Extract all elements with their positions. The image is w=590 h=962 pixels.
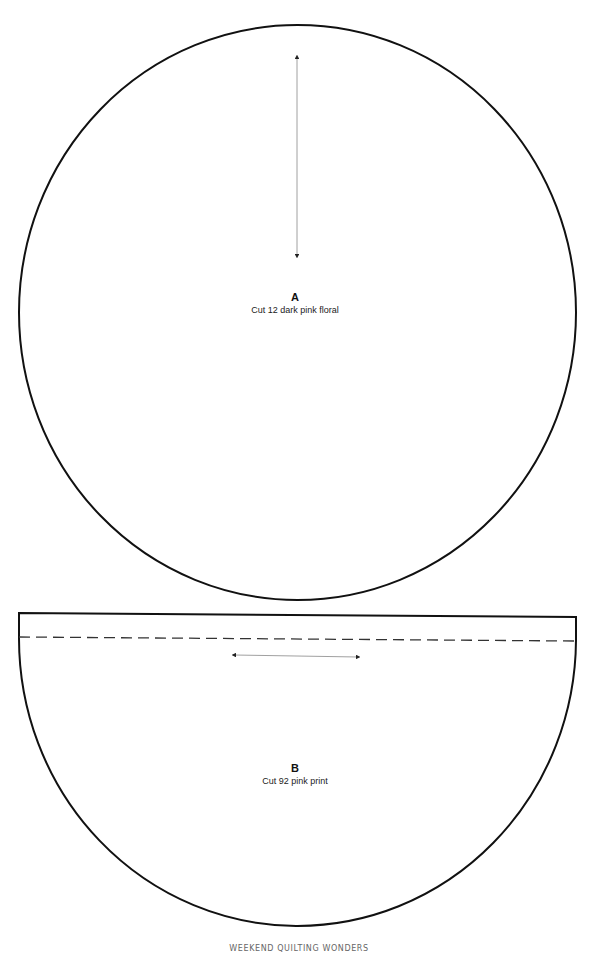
pattern-b-letter: B <box>0 762 590 774</box>
pattern-b-seam-line <box>19 637 576 641</box>
footer-title: WEEKEND QUILTING WONDERS <box>0 944 590 953</box>
pattern-b-grain-arrow-icon <box>234 655 358 657</box>
pattern-sheet <box>0 0 590 962</box>
pattern-a-instruction: Cut 12 dark pink floral <box>0 305 590 315</box>
pattern-a-letter: A <box>0 291 590 303</box>
pattern-b-instruction: Cut 92 pink print <box>0 776 590 786</box>
